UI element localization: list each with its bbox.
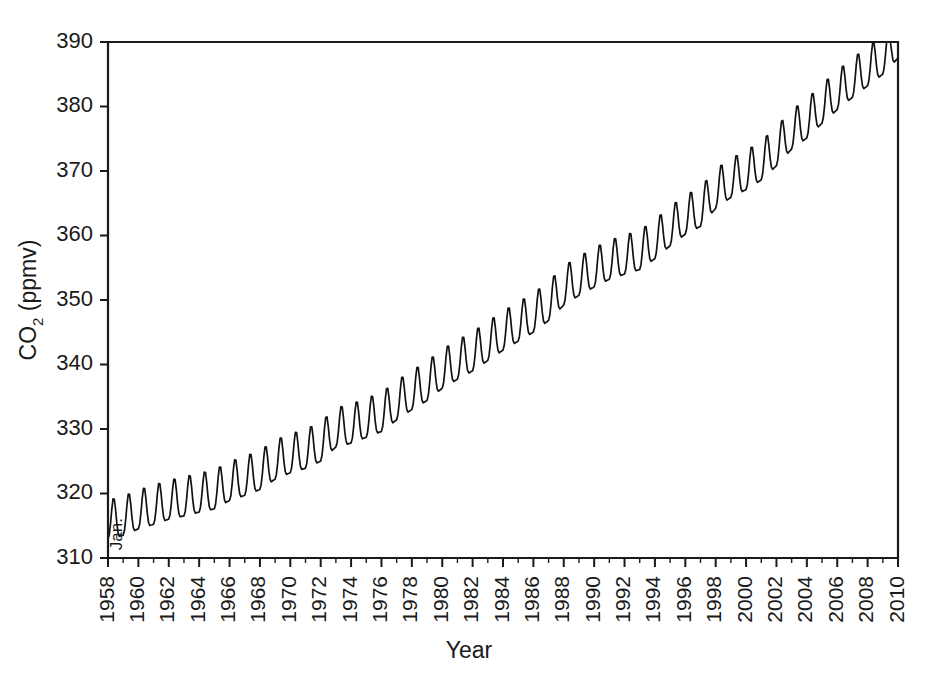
y-tick-label: 340 <box>56 350 93 375</box>
y-tick-label: 330 <box>56 415 93 440</box>
x-tick-label: 1976 <box>368 576 391 623</box>
x-tick-label: 2006 <box>824 576 847 623</box>
y-tick-label: 360 <box>56 221 93 246</box>
x-tick-label: 1998 <box>702 576 725 623</box>
annotation-text: Jan. <box>107 518 126 550</box>
x-tick-label: 1980 <box>429 576 452 623</box>
x-tick-label: 1994 <box>641 576 664 623</box>
jan-marker: Jan. <box>107 518 126 550</box>
x-tick-label: 1964 <box>186 576 209 623</box>
x-tick-label: 1996 <box>672 576 695 623</box>
y-tick-label: 350 <box>56 286 93 311</box>
x-tick-label: 1960 <box>125 576 148 623</box>
x-tick-label: 1982 <box>459 576 482 623</box>
annotations-layer: Jan. <box>107 518 126 550</box>
x-tick-label: 1974 <box>338 576 361 623</box>
y-tick-label: 310 <box>56 544 93 569</box>
y-tick-label: 390 <box>56 28 93 53</box>
y-tick-label: 370 <box>56 157 93 182</box>
y-axis-title-subscript: 2 <box>29 318 46 326</box>
x-tick-label: 1972 <box>307 576 330 623</box>
x-axis-title: Year <box>446 637 493 663</box>
x-tick-label: 1984 <box>490 576 513 623</box>
x-tick-label: 1978 <box>398 576 421 623</box>
x-tick-label: 1986 <box>520 576 543 623</box>
x-tick-label: 2004 <box>793 576 816 623</box>
y-axis-title-pre: CO <box>15 326 41 361</box>
x-tick-label: 1968 <box>246 576 269 623</box>
x-tick-label: 1988 <box>550 576 573 623</box>
x-tick-label: 2010 <box>885 576 908 623</box>
x-tick-label: 2002 <box>763 576 786 623</box>
co2-chart-figure: 3103203303403503603703803901958196019621… <box>0 0 930 690</box>
x-tick-label: 1958 <box>95 576 118 623</box>
x-tick-label: 2008 <box>854 576 877 623</box>
x-tick-label: 2000 <box>733 576 756 623</box>
x-tick-label: 1966 <box>216 576 239 623</box>
x-tick-label: 1970 <box>277 576 300 623</box>
x-tick-label: 1962 <box>155 576 178 623</box>
y-tick-label: 380 <box>56 92 93 117</box>
y-tick-label: 320 <box>56 479 93 504</box>
y-axis-title-post: (ppmv) <box>15 240 41 318</box>
x-tick-label: 1990 <box>581 576 604 623</box>
chart-canvas: 3103203303403503603703803901958196019621… <box>0 0 930 690</box>
x-tick-label: 1992 <box>611 576 634 623</box>
